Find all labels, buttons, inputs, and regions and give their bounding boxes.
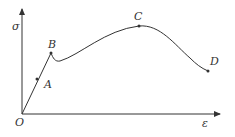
y-axis-label: σ [12,20,20,33]
point-b-label: B [47,38,56,51]
point-d-label: D [209,55,219,68]
point-d-marker [207,70,210,73]
point-c-marker [138,25,141,28]
point-a-marker [36,78,39,81]
point-a-label: A [43,78,52,91]
point-c-label: C [134,10,143,23]
origin-label: O [15,116,24,129]
stress-strain-diagram: σ ε O A B C D [0,0,235,137]
point-b-marker [50,52,53,55]
x-axis-label: ε [202,117,208,130]
